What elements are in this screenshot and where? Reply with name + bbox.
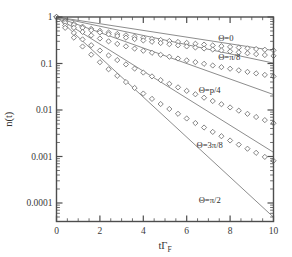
x-axis-title-sub: F bbox=[167, 245, 171, 254]
x-axis-title: tΓF bbox=[158, 240, 171, 254]
data-point-marker bbox=[210, 47, 215, 52]
data-point-marker bbox=[175, 111, 180, 116]
data-point-marker bbox=[228, 138, 233, 143]
y-tick-label: 0.01 bbox=[36, 105, 53, 115]
data-point-marker bbox=[115, 73, 120, 78]
fit-theta-3pi-8 bbox=[57, 17, 274, 152]
data-point-marker bbox=[80, 37, 85, 42]
data-point-marker bbox=[132, 46, 137, 51]
data-point-marker bbox=[132, 85, 137, 90]
data-point-marker bbox=[123, 44, 128, 49]
data-point-marker bbox=[184, 88, 189, 93]
y-tick-label: 1 bbox=[48, 12, 53, 22]
data-point-marker bbox=[175, 56, 180, 61]
x-tick-label: 6 bbox=[184, 226, 189, 236]
data-point-marker bbox=[262, 72, 267, 77]
data-point-marker bbox=[167, 81, 172, 86]
data-point-marker bbox=[262, 47, 267, 52]
data-point-marker bbox=[236, 108, 241, 113]
data-point-marker bbox=[193, 92, 198, 97]
data-point-marker bbox=[149, 96, 154, 101]
data-point-marker bbox=[123, 79, 128, 84]
x-tick-label: 10 bbox=[269, 226, 279, 236]
data-point-marker bbox=[245, 146, 250, 151]
series-2 bbox=[54, 14, 276, 79]
curve-label-2: Θ=p/4 bbox=[199, 85, 222, 95]
data-point-marker bbox=[193, 60, 198, 65]
data-point-marker bbox=[262, 52, 267, 57]
y-tick-label: 0.001 bbox=[31, 152, 53, 162]
curve-label-3: Θ=3π/8 bbox=[196, 140, 222, 150]
data-point-marker bbox=[210, 63, 215, 68]
data-point-marker bbox=[158, 101, 163, 106]
data-point-marker bbox=[201, 95, 206, 100]
data-point-marker bbox=[219, 102, 224, 107]
data-point-marker bbox=[141, 70, 146, 75]
data-point-marker bbox=[158, 78, 163, 83]
curve-label-1: Θ=π/8 bbox=[218, 52, 240, 62]
data-point-marker bbox=[97, 36, 102, 41]
data-point-marker bbox=[228, 105, 233, 110]
data-point-marker bbox=[210, 129, 215, 134]
data-point-marker bbox=[106, 39, 111, 44]
data-point-marker bbox=[97, 48, 102, 53]
data-point-marker bbox=[201, 46, 206, 51]
curve-label-4: Θ=π/2 bbox=[199, 195, 221, 205]
data-point-marker bbox=[97, 60, 102, 65]
data-point-marker bbox=[254, 150, 259, 155]
data-point-marker bbox=[201, 61, 206, 66]
x-tick-label: 4 bbox=[141, 226, 146, 236]
data-point-marker bbox=[245, 51, 250, 56]
data-point-marker bbox=[262, 118, 267, 123]
curve-label-0: Θ=0 bbox=[218, 33, 233, 43]
data-point-marker bbox=[106, 67, 111, 72]
series-3 bbox=[54, 14, 276, 125]
curve-labels-group: Θ=0Θ=π/8Θ=p/4Θ=3π/8Θ=π/2 bbox=[196, 33, 240, 206]
data-point-marker bbox=[210, 98, 215, 103]
data-point-marker bbox=[245, 111, 250, 116]
data-point-marker bbox=[236, 68, 241, 73]
data-point-marker bbox=[115, 57, 120, 62]
x-axis-title-main: tΓ bbox=[158, 240, 167, 251]
data-point-marker bbox=[80, 44, 85, 49]
data-point-marker bbox=[167, 42, 172, 47]
data-point-marker bbox=[254, 71, 259, 76]
data-point-marker bbox=[167, 106, 172, 111]
data-point-marker bbox=[228, 66, 233, 71]
figure-container: 024681010.10.010.0010.0001 Θ=0Θ=π/8Θ=p/4… bbox=[0, 0, 292, 257]
data-point-marker bbox=[184, 116, 189, 121]
y-tick-label: 0.1 bbox=[41, 59, 53, 69]
y-axis-title: n(t) bbox=[3, 111, 15, 127]
data-point-marker bbox=[89, 52, 94, 57]
data-point-marker bbox=[219, 65, 224, 70]
y-tick-label: 0.0001 bbox=[26, 198, 52, 208]
data-point-marker bbox=[254, 114, 259, 119]
decay-log-plot: 024681010.10.010.0010.0001 Θ=0Θ=π/8Θ=p/4… bbox=[0, 0, 292, 257]
data-point-marker bbox=[245, 69, 250, 74]
x-tick-label: 2 bbox=[98, 226, 103, 236]
data-point-marker bbox=[254, 52, 259, 57]
data-point-marker bbox=[193, 120, 198, 125]
data-point-marker bbox=[106, 53, 111, 58]
x-tick-label: 0 bbox=[54, 226, 59, 236]
data-point-marker bbox=[158, 52, 163, 57]
data-point-marker bbox=[201, 125, 206, 130]
x-tick-label: 8 bbox=[228, 226, 233, 236]
axis-titles-group: tΓFn(t) bbox=[3, 111, 172, 253]
data-point-marker bbox=[115, 41, 120, 46]
data-point-marker bbox=[219, 134, 224, 139]
data-point-marker bbox=[236, 142, 241, 147]
data-point-marker bbox=[175, 85, 180, 90]
data-point-marker bbox=[123, 62, 128, 67]
data-point-marker bbox=[262, 154, 267, 159]
data-point-marker bbox=[184, 58, 189, 63]
data-point-marker bbox=[167, 54, 172, 59]
data-point-marker bbox=[71, 35, 76, 40]
data-point-marker bbox=[80, 29, 85, 34]
